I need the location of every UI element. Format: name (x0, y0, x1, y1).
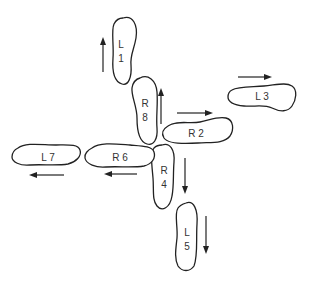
label-L3: L 3 (255, 91, 269, 102)
segment-R4: R 4 (152, 144, 188, 208)
segment-L7: L 7 (12, 144, 80, 178)
segment-L5: L 5 (176, 202, 209, 270)
label-L5-line2: 5 (184, 241, 190, 252)
segment-L1: L 1 (100, 17, 136, 84)
label-L1-line1: L (118, 39, 124, 50)
arrow-left-icon (29, 172, 64, 178)
arrow-up-icon (100, 37, 106, 72)
label-L1-line2: 1 (118, 53, 124, 64)
arrow-down-icon (203, 216, 209, 254)
segment-R6: R 6 (85, 144, 155, 177)
label-L7: L 7 (41, 152, 55, 163)
arrow-down-icon (182, 158, 188, 194)
arrow-right-icon (238, 74, 272, 80)
segment-R2: R 2 (163, 110, 233, 143)
blob-R8 (132, 77, 157, 145)
label-R6: R 6 (112, 152, 128, 163)
label-R8-line1: R (141, 98, 148, 109)
label-R8-line2: 8 (142, 112, 148, 123)
arrow-right-icon (177, 110, 213, 116)
segment-L3: L 3 (228, 74, 296, 111)
blob-L1 (113, 17, 137, 84)
label-R4-line1: R (160, 165, 167, 176)
arrow-left-icon (104, 171, 137, 177)
segment-diagram: L 1 R 8 R 2 L 3 R (0, 0, 309, 282)
arrow-up-icon (158, 88, 164, 124)
segment-R8: R 8 (132, 77, 164, 145)
label-R4-line2: 4 (161, 179, 167, 190)
label-R2: R 2 (188, 128, 204, 139)
label-L5-line1: L (184, 227, 190, 238)
